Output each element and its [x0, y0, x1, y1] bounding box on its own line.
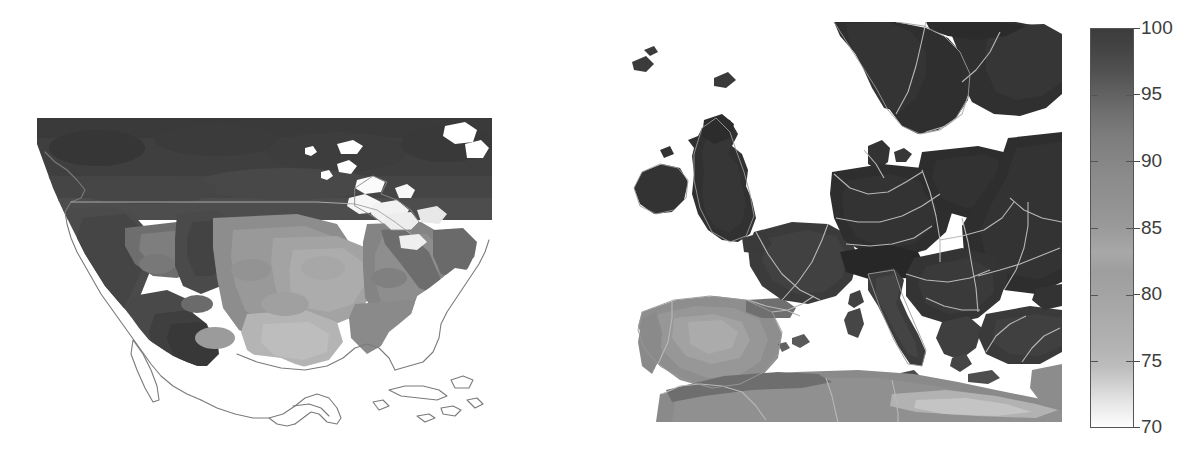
colorbar-tick-label: 75: [1141, 351, 1162, 370]
colorbar-inner-tick: [1091, 95, 1098, 96]
tick-mark-icon: [1134, 361, 1140, 362]
map-panel-europe: [596, 22, 1062, 422]
tick-mark-icon: [1134, 228, 1140, 229]
tick-mark-icon: [1134, 161, 1140, 162]
map-panel-north-america: [37, 118, 492, 428]
colorbar-inner-tick: [1091, 361, 1098, 362]
colorbar-tick-label: 70: [1141, 417, 1162, 436]
tick-mark-icon: [1134, 427, 1140, 428]
colorbar-tick-label: 95: [1141, 84, 1162, 103]
colorbar-inner-tick: [1126, 161, 1133, 162]
colorbar-tick-label: 100: [1141, 18, 1173, 37]
colorbar-tick-list: 100 95 90 85 80 75: [1134, 28, 1194, 428]
colorbar-tick-label: 85: [1141, 218, 1162, 237]
colorbar-inner-tick: [1126, 228, 1133, 229]
colorbar-tick-label: 80: [1141, 284, 1162, 303]
colorbar-inner-tick: [1126, 295, 1133, 296]
north-america-raster: [37, 118, 492, 428]
europe-raster: [596, 22, 1062, 422]
colorbar-tick-label: 90: [1141, 151, 1162, 170]
figure-canvas: 100 95 90 85 80 75: [0, 0, 1198, 460]
colorbar-inner-tick: [1091, 161, 1098, 162]
colorbar-inner-tick: [1126, 361, 1133, 362]
colorbar-inner-tick: [1126, 95, 1133, 96]
colorbar: 100 95 90 85 80 75: [1090, 28, 1194, 432]
colorbar-inner-tick: [1091, 228, 1098, 229]
tick-mark-icon: [1134, 28, 1140, 29]
tick-mark-icon: [1134, 94, 1140, 95]
tick-mark-icon: [1134, 294, 1140, 295]
colorbar-inner-tick: [1091, 295, 1098, 296]
